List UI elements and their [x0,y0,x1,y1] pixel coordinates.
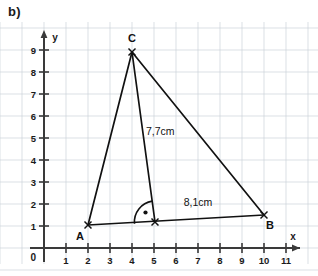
figure-canvas: b) [0,0,318,276]
x-tick-label: 7 [195,255,200,266]
y-tick-label: 7 [31,89,36,100]
x-tick-label: 4 [129,255,135,266]
x-tick-label: 5 [151,255,157,266]
y-tick-label: 2 [31,199,36,210]
y-tick-label: 4 [31,155,37,166]
axes: 1 2 3 4 5 6 7 8 9 10 11 1 2 3 4 5 6 7 [30,30,300,266]
y-tick-label: 3 [31,177,36,188]
x-tick-label: 8 [217,255,222,266]
x-tick-label: 9 [239,255,244,266]
x-tick-label: 2 [85,255,90,266]
y-tick-label: 6 [31,111,36,122]
coordinate-plane-diagram: 1 2 3 4 5 6 7 8 9 10 11 1 2 3 4 5 6 7 [0,0,318,276]
x-tick-label: 3 [107,255,112,266]
height-measure-label: 7,7cm [146,125,175,137]
x-tick-label: 1 [63,255,69,266]
x-tick-label: 10 [259,255,270,266]
x-axis-arrow [292,245,300,252]
vertex-label-a: A [76,230,84,242]
origin-label: 0 [30,252,36,263]
y-tick-label: 9 [31,45,36,56]
x-axis-label: x [290,231,296,242]
y-axis-arrow [41,30,48,38]
vertex-label-c: C [128,32,136,44]
vertex-label-b: B [266,219,274,231]
x-tick-labels: 1 2 3 4 5 6 7 8 9 10 11 [63,255,291,266]
x-tick-label: 11 [281,255,292,266]
grid-lines [0,22,318,270]
y-tick-label: 8 [31,67,36,78]
altitude-segment-ch [132,52,155,222]
grid-vertical [0,22,308,264]
vertex-labels: A B C [76,32,274,242]
grid-horizontal [0,28,318,270]
measurement-labels: 7,7cm 8,1cm [146,125,213,208]
x-tick-label: 6 [173,255,178,266]
y-axis-label: y [52,32,58,43]
right-angle-dot [143,210,147,214]
y-tick-labels: 1 2 3 4 5 6 7 8 9 [31,45,37,232]
y-tick-label: 5 [31,133,37,144]
right-angle-marker [134,201,152,224]
base-measure-label: 8,1cm [184,196,213,208]
y-tick-label: 1 [31,221,37,232]
right-angle-arc [134,201,152,224]
